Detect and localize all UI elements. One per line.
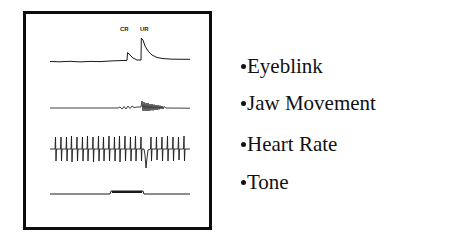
legend-label: Eyeblink [247, 54, 323, 78]
legend-label: Heart Rate [247, 132, 337, 156]
bullet-icon [241, 64, 246, 69]
legend-label: Jaw Movement [247, 91, 376, 115]
trace-legend: Eyeblink Jaw Movement Heart Rate Tone [241, 0, 453, 240]
bullet-icon [241, 101, 246, 106]
bullet-icon [241, 180, 246, 185]
ur-label: UR [140, 26, 149, 32]
legend-label: Tone [247, 170, 289, 194]
legend-item-tone: Tone [241, 172, 289, 193]
heart-rate-trace [50, 136, 190, 168]
bullet-icon [241, 142, 246, 147]
tone-trace [50, 191, 190, 194]
cr-label: CR [120, 26, 129, 32]
legend-item-eyeblink: Eyeblink [241, 56, 323, 77]
legend-item-jaw-movement: Jaw Movement [241, 93, 376, 114]
legend-item-heart-rate: Heart Rate [241, 134, 337, 155]
jaw-trace [50, 101, 190, 111]
eyeblink-trace [50, 38, 190, 62]
